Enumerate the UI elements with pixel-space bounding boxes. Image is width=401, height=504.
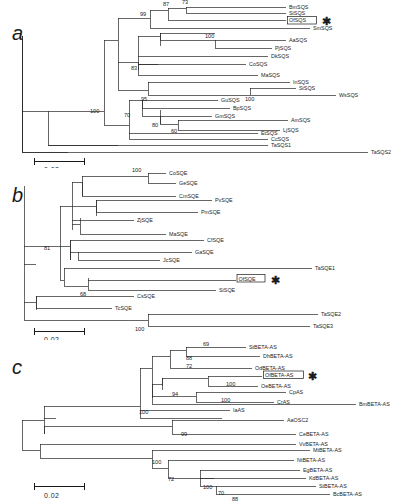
tip-label: TaSQS2 [371, 149, 391, 155]
star-icon: ✱ [271, 274, 280, 286]
tip-label: SiSQE [219, 287, 236, 293]
tip-label: GuSQS [221, 97, 240, 103]
bootstrap-value: 100 [203, 484, 212, 490]
figure-canvas: a [0, 0, 401, 504]
tip-label: SiSQS [299, 85, 316, 91]
bootstrap-value: 88 [186, 355, 192, 361]
tip-label: DkSQS [271, 53, 289, 59]
bootstrap-value: 100 [245, 96, 254, 102]
tip-label: ZjSQE [137, 217, 153, 223]
panel-b-tree: 100 81 68 100 CoSQE GeSQE CmSQE PvSQE Pm… [0, 168, 401, 340]
tip-label: DhBETA-AS [263, 353, 293, 359]
tip-label: EgBETA-AS [303, 467, 333, 473]
bootstrap-value: 100 [132, 168, 141, 173]
bootstrap-value: 87 [163, 1, 169, 7]
tip-label: OeBETA-AS [261, 383, 291, 389]
tip-label: GeSQE [179, 180, 198, 186]
bootstrap-value: 70 [124, 112, 130, 118]
tip-label: StBETA-AS [319, 483, 347, 489]
tip-label: BcBETA-AS [333, 491, 362, 497]
tip-label: GaSQE [195, 249, 214, 255]
tip-label: MaSQS [261, 72, 280, 78]
panel-b-branches [24, 173, 318, 326]
bootstrap-value: 72 [186, 363, 192, 369]
tip-label-highlighted: OfBETA-AS [265, 372, 294, 378]
tip-label: AmSQS [291, 117, 311, 123]
panel-a-tree: 87 73 99 100 83 95 100 100 70 80 60 BmSQ… [0, 0, 401, 168]
tip-label: TaSQS1 [271, 142, 291, 148]
bootstrap-value: 70 [218, 490, 224, 496]
tip-label: IaAS [233, 407, 245, 413]
bootstrap-value: 73 [182, 0, 188, 5]
bootstrap-value: 69 [203, 341, 209, 347]
tip-label: StBETA-AS [249, 344, 277, 350]
bootstrap-value: 88 [232, 496, 238, 502]
tip-label: SmSQS [313, 25, 333, 31]
panel-c-tip-labels: StBETA-AS DhBETA-AS OdBETA-AS OfBETA-AS … [233, 344, 390, 497]
scale-bar-label: 0.02 [44, 492, 59, 499]
bootstrap-value: 60 [171, 128, 177, 134]
bootstrap-value: 100 [226, 381, 235, 387]
tip-label: CoSQE [169, 170, 188, 176]
tip-label: AaOSC2 [287, 417, 308, 423]
bootstrap-value: 72 [168, 476, 174, 482]
tip-label: TaSQE3 [313, 323, 333, 329]
panel-c-scale-bar: 0.02 [34, 483, 84, 500]
bootstrap-value: 100 [205, 33, 214, 39]
tip-label: BmBETA-AS [359, 401, 390, 407]
bootstrap-value: 100 [135, 326, 144, 332]
tip-label: CfSQE [207, 237, 224, 243]
tip-label: AaSQS [289, 37, 307, 43]
tip-label: CrAS [277, 399, 290, 405]
tip-label: PmSQE [201, 209, 221, 215]
bootstrap-value: 80 [152, 122, 158, 128]
tip-label: CeBETA-AS [299, 431, 329, 437]
tip-label: LjSQS [283, 127, 299, 133]
tip-label: KdBETA-AS [309, 475, 339, 481]
tip-label: SiSQS [289, 10, 306, 16]
bootstrap-value: 68 [80, 291, 86, 297]
bootstrap-value: 100 [90, 108, 99, 114]
bootstrap-value: 83 [131, 65, 137, 71]
bootstrap-value: 81 [44, 245, 50, 251]
tip-label: CoSQS [249, 61, 268, 67]
tip-label: BpSQS [233, 105, 251, 111]
tip-label: PvSQE [215, 197, 233, 203]
tip-label: TaSQE1 [315, 265, 335, 271]
star-icon: ✱ [308, 370, 317, 382]
tip-label: TaSQE2 [321, 311, 341, 317]
tip-label: OdBETA-AS [255, 365, 285, 371]
panel-a-scale-bar: 0.02 [34, 158, 84, 169]
tip-label: GmSQS [215, 113, 235, 119]
tip-label: CpAS [289, 389, 303, 395]
tip-label: WsSQS [339, 92, 359, 98]
bootstrap-value: 99 [181, 431, 187, 437]
tip-label-highlighted: OfSQE [239, 276, 256, 282]
bootstrap-value: 99 [140, 11, 146, 17]
bootstrap-value: 95 [141, 96, 147, 102]
tip-label: JcSQE [163, 257, 180, 263]
bootstrap-value: 94 [172, 391, 178, 397]
panel-b-tip-labels: CoSQE GeSQE CmSQE PvSQE PmSQE ZjSQE MaSQ… [115, 170, 341, 329]
bootstrap-value: 100 [152, 459, 161, 465]
tip-label: PjSQS [275, 45, 292, 51]
panel-a-tip-labels: BmSQS SiSQS OfSQS ✱ SmSQS AaSQS PjSQS Dk… [215, 4, 391, 155]
tip-label: CmSQE [179, 193, 199, 199]
bootstrap-value: 100 [221, 397, 230, 403]
bootstrap-value: 100 [139, 409, 148, 415]
tip-label: MtBETA-AS [313, 447, 342, 453]
panel-c-tree: 69 88 72 100 94 100 100 99 100 72 100 70… [0, 338, 401, 504]
tip-label: CsSQE [137, 293, 155, 299]
tip-label: NtBETA-AS [297, 457, 325, 463]
tip-label-highlighted: OfSQS [289, 17, 306, 23]
tip-label: MaSQE [169, 231, 188, 237]
tip-label: TcSQE [115, 305, 132, 311]
